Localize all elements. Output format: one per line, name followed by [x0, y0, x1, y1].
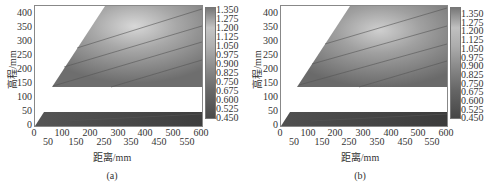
- xtick: 600: [194, 128, 209, 138]
- panel-b: 400 350 300 250 200 150 100 50 0 高程/mm 0…: [243, 0, 486, 185]
- xtick: 350: [370, 137, 385, 147]
- colorbar-a: [205, 7, 216, 119]
- ytick: 300: [8, 36, 32, 46]
- colorbar-b: [450, 7, 461, 119]
- ytick: 350: [8, 22, 32, 32]
- xtick: 100: [301, 128, 316, 138]
- ytick: 50: [8, 106, 32, 116]
- xtick: 0: [32, 128, 37, 138]
- xtick: 100: [55, 128, 70, 138]
- heatmap-plot-b: [280, 5, 448, 127]
- xtick: 450: [398, 137, 413, 147]
- xtick: 50: [289, 137, 299, 147]
- cbtick: 0.450: [216, 113, 239, 123]
- xtick: 300: [356, 128, 371, 138]
- ytick: 50: [254, 106, 278, 116]
- ytick: 300: [254, 36, 278, 46]
- xtick: 250: [97, 137, 112, 147]
- y-axis-label-a: 高程/mm: [4, 50, 19, 88]
- xtick: 0: [278, 128, 283, 138]
- panel-a: 400 350 300 250 200 150 100 50 0 高程/mm 0…: [0, 0, 243, 185]
- xtick: 450: [152, 137, 167, 147]
- heatmap-surface-a: [35, 6, 202, 126]
- caption-a: (a): [106, 170, 117, 181]
- x-axis-label-b: 距离/mm: [341, 149, 379, 164]
- y-axis-label-b: 高程/mm: [249, 50, 264, 88]
- ytick: 0: [8, 120, 32, 130]
- xtick: 550: [425, 137, 440, 147]
- ytick: 350: [254, 22, 278, 32]
- caption-b: (b): [354, 170, 366, 181]
- xtick: 50: [43, 137, 53, 147]
- xtick: 400: [138, 128, 153, 138]
- xtick: 200: [328, 128, 343, 138]
- xtick: 550: [180, 137, 195, 147]
- xtick: 150: [69, 137, 84, 147]
- xtick: 600: [439, 128, 454, 138]
- heatmap-surface-b: [281, 6, 447, 126]
- ytick: 0: [254, 120, 278, 130]
- xtick: 150: [315, 137, 330, 147]
- xtick: 350: [124, 137, 139, 147]
- ytick: 100: [8, 92, 32, 102]
- xtick: 200: [83, 128, 98, 138]
- ytick: 400: [254, 8, 278, 18]
- xtick: 250: [342, 137, 357, 147]
- xtick: 500: [166, 128, 181, 138]
- ytick: 400: [8, 8, 32, 18]
- x-axis-label-a: 距离/mm: [93, 149, 131, 164]
- cbtick: 0.450: [461, 113, 484, 123]
- xtick: 500: [411, 128, 426, 138]
- heatmap-plot-a: [34, 5, 203, 127]
- ytick: 100: [254, 92, 278, 102]
- xtick: 400: [384, 128, 399, 138]
